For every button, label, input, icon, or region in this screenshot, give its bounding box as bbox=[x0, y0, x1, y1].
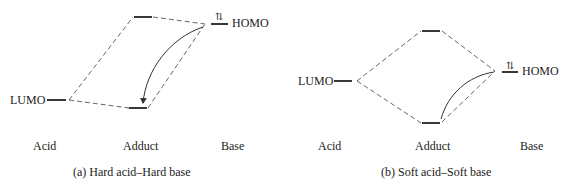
acid-lumo-label: LUMO bbox=[298, 74, 334, 88]
correlation-line bbox=[442, 31, 495, 71]
column-label-base: Base bbox=[221, 139, 244, 153]
base-homo-label: HOMO bbox=[232, 16, 269, 30]
column-label-acid: Acid bbox=[33, 139, 56, 153]
correlation-line bbox=[148, 24, 205, 108]
correlation-line bbox=[153, 17, 205, 24]
column-label-adduct: Adduct bbox=[123, 139, 159, 153]
electron-pair-icon: ⇅ bbox=[215, 11, 223, 22]
electron-pair-icon: ⇅ bbox=[506, 60, 514, 71]
panel-a-hard-acid-hard-base: LUMO ⇅ HOMO Acid Adduct Base (a) Hard ac… bbox=[10, 11, 269, 179]
electron-transfer-arrow bbox=[143, 27, 203, 103]
correlation-line bbox=[357, 31, 421, 81]
acid-lumo-label: LUMO bbox=[10, 93, 46, 107]
panel-b-caption: (b) Soft acid–Soft base bbox=[381, 165, 491, 179]
base-homo-label: HOMO bbox=[522, 64, 559, 78]
panel-a-caption: (a) Hard acid–Hard base bbox=[73, 165, 191, 179]
electron-transfer-arrow bbox=[441, 72, 494, 119]
column-label-adduct: Adduct bbox=[415, 139, 451, 153]
correlation-line bbox=[442, 71, 495, 122]
hsab-orbital-diagram: LUMO ⇅ HOMO Acid Adduct Base (a) Hard ac… bbox=[0, 0, 562, 188]
correlation-line bbox=[69, 100, 129, 108]
panel-b-soft-acid-soft-base: LUMO ⇅ HOMO Acid Adduct Base (b) Soft ac… bbox=[298, 31, 559, 179]
column-label-acid: Acid bbox=[318, 139, 341, 153]
correlation-line bbox=[357, 81, 421, 123]
correlation-line bbox=[69, 17, 133, 100]
column-label-base: Base bbox=[520, 139, 543, 153]
